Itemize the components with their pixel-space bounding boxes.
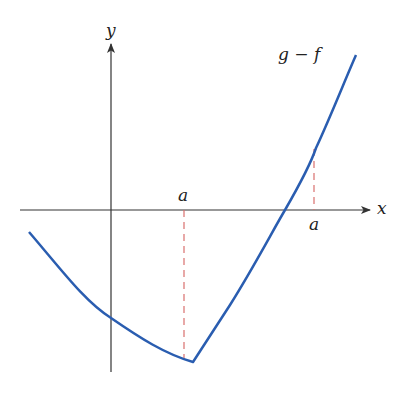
curve-label: g − f <box>278 46 320 63</box>
x-axis-label: x <box>377 200 387 217</box>
diagram-graphics <box>0 0 405 396</box>
diagram-canvas: y x a a g − f <box>0 0 405 396</box>
curve-g-minus-f <box>29 55 356 362</box>
y-axis-label: y <box>106 22 116 39</box>
marker-label-a-right: a <box>309 216 319 233</box>
marker-label-a-left: a <box>178 187 188 204</box>
